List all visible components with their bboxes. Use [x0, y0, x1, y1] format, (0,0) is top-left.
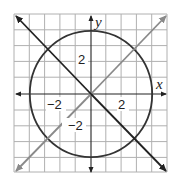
y-axis-label: y: [93, 14, 102, 30]
x-axis-label: x: [155, 76, 163, 92]
coordinate-plane: 2 −2 −2 2 x y: [0, 0, 175, 184]
line-y-equals-x: [91, 16, 166, 94]
y-tick-label-neg2: −2: [68, 118, 83, 133]
y-tick-label-2: 2: [78, 52, 85, 67]
x-tick-label-2: 2: [118, 97, 125, 112]
x-tick-label-neg2: −2: [47, 97, 62, 112]
